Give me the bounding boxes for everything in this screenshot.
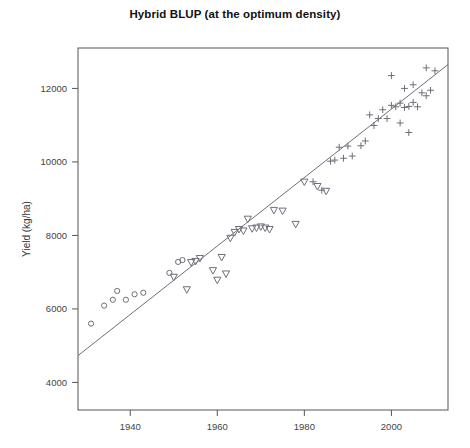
plot-frame	[78, 48, 448, 410]
data-point-triangle	[170, 274, 177, 280]
chart-root: Hybrid BLUP (at the optimum density) 194…	[0, 0, 470, 448]
data-point-plus	[344, 143, 351, 150]
data-point-plus	[340, 155, 347, 162]
data-point-triangle	[301, 179, 308, 185]
y-tick-label: 6000	[46, 303, 67, 314]
regression-line	[78, 65, 448, 356]
y-axis-title: Yield (kg/ha)	[21, 201, 32, 257]
y-tick-label: 10000	[41, 156, 67, 167]
data-point-triangle	[323, 188, 330, 194]
data-point-plus	[336, 144, 343, 151]
scatter-plot: 1940196019802000 4000600080001000012000 …	[0, 0, 470, 448]
x-tick-label: 1960	[207, 421, 228, 432]
data-point-plus	[427, 87, 434, 94]
data-point-plus	[405, 103, 412, 110]
x-tick-label: 1980	[294, 421, 315, 432]
data-point-triangle	[222, 271, 229, 277]
data-point-plus	[384, 115, 391, 122]
data-point-plus	[397, 120, 404, 127]
data-point-triangle	[209, 268, 216, 274]
data-point-triangle	[270, 207, 277, 213]
data-point-triangle	[314, 183, 321, 189]
data-point-plus	[362, 138, 369, 145]
data-point-triangle	[266, 226, 273, 232]
y-tick-label: 12000	[41, 83, 67, 94]
data-point-triangle	[183, 287, 190, 293]
data-point-plus	[414, 103, 421, 110]
data-point-triangle	[292, 221, 299, 227]
data-point-plus	[410, 81, 417, 88]
data-point-plus	[310, 178, 317, 185]
data-point-plus	[371, 122, 378, 129]
data-point-circle	[132, 292, 137, 297]
data-point-circle	[110, 297, 115, 302]
data-point-plus	[349, 153, 356, 160]
data-point-triangle	[279, 208, 286, 214]
y-tick-label: 4000	[46, 377, 67, 388]
x-axis-ticks: 1940196019802000	[120, 410, 402, 432]
data-point-circle	[141, 290, 146, 295]
data-markers	[88, 64, 438, 326]
x-tick-label: 1940	[120, 421, 141, 432]
y-axis-ticks: 4000600080001000012000	[41, 83, 78, 388]
data-point-plus	[418, 89, 425, 96]
data-point-plus	[331, 157, 338, 164]
data-point-circle	[123, 297, 128, 302]
y-tick-label: 8000	[46, 230, 67, 241]
data-point-circle	[180, 257, 185, 262]
data-point-plus	[423, 64, 430, 71]
data-point-plus	[401, 104, 408, 111]
data-point-plus	[401, 85, 408, 92]
data-point-plus	[405, 129, 412, 136]
trendline	[78, 65, 448, 356]
data-point-circle	[102, 303, 107, 308]
data-point-plus	[410, 99, 417, 106]
data-point-plus	[392, 103, 399, 110]
data-point-plus	[388, 72, 395, 79]
data-point-triangle	[218, 254, 225, 260]
data-point-triangle	[240, 228, 247, 234]
data-point-circle	[88, 321, 93, 326]
data-point-plus	[358, 142, 365, 149]
data-point-plus	[423, 92, 430, 99]
data-point-circle	[115, 288, 120, 293]
x-tick-label: 2000	[381, 421, 402, 432]
plot-box	[78, 48, 448, 410]
data-point-triangle	[214, 277, 221, 283]
data-point-plus	[379, 106, 386, 113]
y-axis-label: Yield (kg/ha)	[21, 201, 32, 257]
data-point-plus	[366, 111, 373, 118]
